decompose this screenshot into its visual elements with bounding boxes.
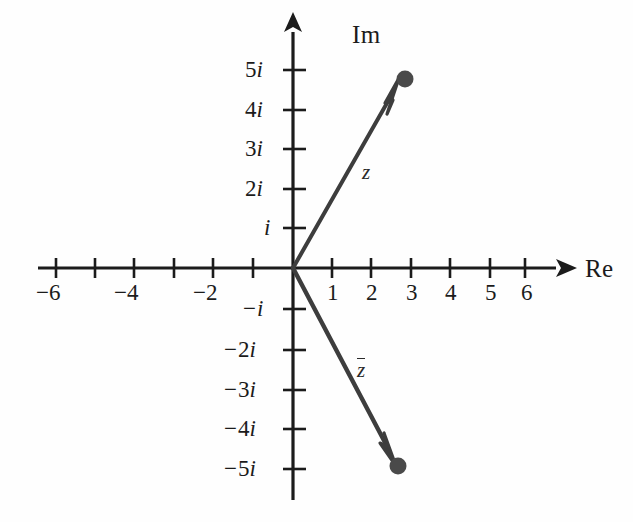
tick-label-x-3: 3 <box>406 281 418 304</box>
tick-label-y-5i-num: 5 <box>245 57 257 82</box>
tick-label-y--5i-num: 5 <box>238 456 250 481</box>
tick-label-x--4: −4 <box>114 281 138 304</box>
tick-label-y-i: i <box>263 216 270 239</box>
tick-label-x-4: 4 <box>445 281 457 304</box>
real-axis-label: Re <box>585 256 613 281</box>
vector-z-arrowhead <box>385 78 399 114</box>
tick-label-y--i-unit: i <box>257 296 263 321</box>
vector-z-conjugate <box>293 268 407 475</box>
point-z-conjugate <box>390 458 407 475</box>
tick-label-x-6: 6 <box>521 281 533 304</box>
tick-label-y--5i-sign: − <box>224 456 238 481</box>
tick-label-x-5: 5 <box>485 281 497 304</box>
point-z <box>397 71 414 88</box>
vector-label-z: z <box>362 162 370 183</box>
tick-label-y--4i-unit: i <box>249 416 255 441</box>
tick-label-y--i-sign: − <box>243 296 257 321</box>
tick-label-y-3i-unit: i <box>257 136 263 161</box>
tick-label-y--4i-sign: − <box>224 416 238 441</box>
tick-label-y--2i-unit: i <box>249 337 255 362</box>
tick-label-y-5i-unit: i <box>257 57 263 82</box>
tick-label-x--6: −6 <box>36 281 60 304</box>
tick-label-y--2i-num: 2 <box>238 337 250 362</box>
tick-label-y-4i: 4i <box>244 98 263 121</box>
vector-label-z-conjugate: z <box>357 358 365 381</box>
tick-label-y--2i-sign: − <box>224 337 238 362</box>
tick-label-y--i: −i <box>243 297 263 320</box>
tick-label-y-3i: 3i <box>244 137 263 160</box>
vector-z <box>293 71 414 269</box>
tick-label-y-3i-num: 3 <box>245 136 257 161</box>
tick-label-x--2: −2 <box>193 281 217 304</box>
tick-label-y-5i: 5i <box>244 58 263 81</box>
tick-label-y-2i-num: 2 <box>245 176 257 201</box>
tick-label-y--3i-unit: i <box>249 377 255 402</box>
real-axis <box>38 259 577 277</box>
tick-label-y--2i: −2i <box>224 338 256 361</box>
tick-label-y--5i: −5i <box>224 457 256 480</box>
tick-label-y--4i-num: 4 <box>238 416 250 441</box>
complex-plane-figure: Im Re −6 −4 −2 1 2 3 4 5 6 5i 4i 3i 2i i… <box>0 0 633 522</box>
tick-label-y--3i-num: 3 <box>238 377 250 402</box>
tick-label-x-1: 1 <box>327 281 339 304</box>
imaginary-axis-arrowhead <box>284 12 302 32</box>
real-axis-arrowhead <box>556 259 577 277</box>
tick-label-y-i-unit: i <box>264 215 270 240</box>
tick-label-y-2i-unit: i <box>257 176 263 201</box>
tick-label-y-4i-unit: i <box>257 97 263 122</box>
tick-label-y-4i-num: 4 <box>245 97 257 122</box>
tick-label-y--3i: −3i <box>224 378 256 401</box>
complex-plane-plot <box>0 0 633 522</box>
tick-label-y--5i-unit: i <box>249 456 255 481</box>
tick-label-y--3i-sign: − <box>224 377 238 402</box>
imaginary-axis-label: Im <box>352 22 380 47</box>
vector-label-z-conjugate-base: z <box>357 358 365 381</box>
vector-z-shaft <box>293 96 391 268</box>
tick-label-x-2: 2 <box>366 281 378 304</box>
tick-label-y--4i: −4i <box>224 417 256 440</box>
tick-label-y-2i: 2i <box>244 177 263 200</box>
